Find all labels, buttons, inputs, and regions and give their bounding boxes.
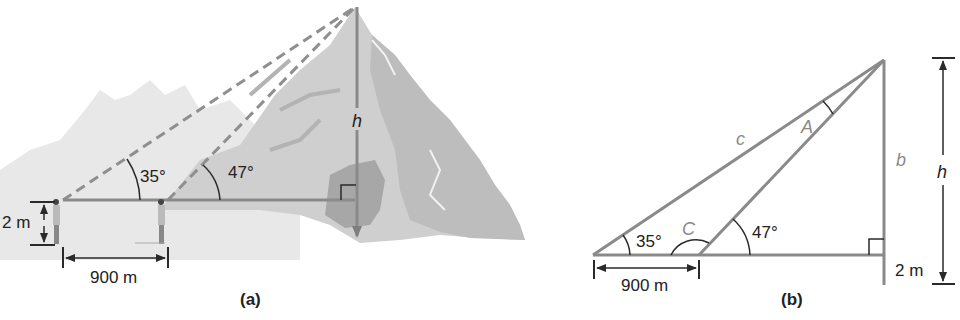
angle-label-35-a: 35° [140,167,166,186]
caption-a: (a) [240,290,261,309]
side-a-inner [699,60,884,255]
panel-b: 35° 47° C A c b 900 m 2 m h (b) [593,58,955,309]
side-label-c: c [736,129,745,149]
distance-label-b: 900 m [621,276,668,295]
angle-label-47-a: 47° [228,163,254,182]
caption-b: (b) [781,290,803,309]
angle-arc-A [823,101,833,114]
eye-height-label-a: 2 m [2,213,30,232]
right-angle-marker [869,239,884,255]
observer-figure [53,199,60,244]
vertex-label-C: C [682,219,696,239]
vertex-label-A: A [800,117,813,137]
height-label-b: h [937,162,947,182]
angle-label-47-b: 47° [752,223,778,242]
eye-height-label-b: 2 m [895,261,923,280]
angle-arc-C [671,240,709,255]
angle-arc-35-b [623,235,630,255]
height-label-a: h [352,111,362,131]
distance-label-a: 900 m [90,268,137,287]
observer-figure [158,199,165,244]
angle-arc-47-b [733,219,750,255]
figure: h 35° 47° 2 m 900 m (a) [0,0,960,320]
side-label-b: b [896,150,906,170]
panel-a: h 35° 47° 2 m 900 m (a) [0,7,525,309]
angle-label-35-b: 35° [636,232,662,251]
